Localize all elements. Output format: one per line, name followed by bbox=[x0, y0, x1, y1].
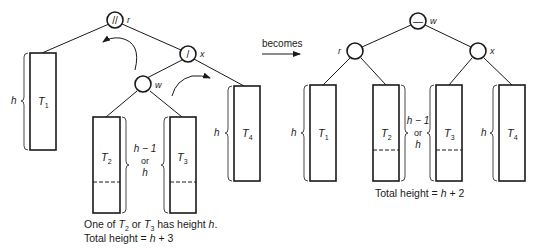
height-label-t4-before: h bbox=[214, 127, 220, 138]
brace-t1-after bbox=[301, 85, 308, 181]
node-label-r: r bbox=[127, 15, 131, 25]
middle-height-line1-after: h − 1 bbox=[407, 115, 430, 126]
edge-w-t3 bbox=[150, 91, 182, 117]
edge-x-t4 bbox=[194, 59, 244, 86]
node-label-r-after: r bbox=[338, 46, 342, 56]
edge-r-x bbox=[122, 24, 181, 50]
height-label-t1-before: h bbox=[11, 95, 17, 106]
brace-t4-after bbox=[490, 85, 497, 181]
brace-t3-left-after bbox=[427, 85, 434, 181]
edge-w-x-after bbox=[425, 25, 471, 47]
node-label-x-after: x bbox=[489, 46, 495, 56]
edge-x-t3-after bbox=[449, 58, 472, 85]
rotation-arrow-left bbox=[103, 38, 137, 70]
edge-x-w bbox=[147, 60, 182, 78]
middle-height-line1-before: h − 1 bbox=[134, 143, 157, 154]
caption-after: Total height = h + 2 bbox=[375, 187, 464, 199]
caption-before: One of T2 or T3 has height h. Total heig… bbox=[84, 218, 217, 244]
edge-r-t1-after bbox=[323, 58, 350, 85]
brace-t3-left-before bbox=[161, 117, 168, 213]
balance-glyph-w-after: — bbox=[413, 16, 423, 27]
subtree-t2-before bbox=[93, 117, 120, 213]
node-label-x: x bbox=[199, 49, 205, 59]
brace-t2-right-after bbox=[401, 85, 408, 181]
brace-t1-before bbox=[21, 53, 28, 150]
middle-height-line3-before: h bbox=[142, 167, 148, 178]
height-label-t1-after: h bbox=[291, 127, 297, 138]
transition: becomes bbox=[262, 38, 303, 54]
brace-t4-before bbox=[225, 86, 232, 181]
node-x-after bbox=[470, 43, 486, 59]
caption-before-line2: Total height = h + 3 bbox=[84, 232, 173, 244]
caption-before-line1: One of T2 or T3 has height h. bbox=[84, 218, 217, 232]
node-w-before bbox=[135, 76, 151, 92]
becomes-label: becomes bbox=[262, 38, 303, 49]
edge-w-t2 bbox=[106, 91, 137, 117]
node-label-w-after: w bbox=[430, 16, 437, 26]
after-tree bbox=[301, 13, 525, 181]
middle-height-line2-before: or bbox=[141, 156, 149, 166]
subtree-t3-before bbox=[170, 117, 196, 213]
middle-height-line2-after: or bbox=[414, 128, 422, 138]
before-tree bbox=[21, 12, 260, 213]
edge-r-t1 bbox=[42, 24, 109, 53]
edge-x-t4-after bbox=[484, 58, 512, 85]
avl-double-rotation-diagram: // / r x w T1 T2 T3 T4 h h h − 1 or h On… bbox=[0, 0, 534, 249]
edge-r-t2-after bbox=[361, 58, 386, 85]
brace-t2-right-before bbox=[122, 117, 129, 213]
edge-w-r-after bbox=[362, 25, 411, 47]
node-r-after bbox=[347, 43, 363, 59]
middle-height-line3-after: h bbox=[415, 139, 421, 150]
height-label-t4-after: h bbox=[481, 127, 487, 138]
balance-glyph-r: // bbox=[112, 15, 118, 26]
rotation-arrow-right bbox=[172, 76, 210, 96]
node-label-w: w bbox=[155, 80, 162, 90]
balance-glyph-x: / bbox=[187, 49, 190, 60]
